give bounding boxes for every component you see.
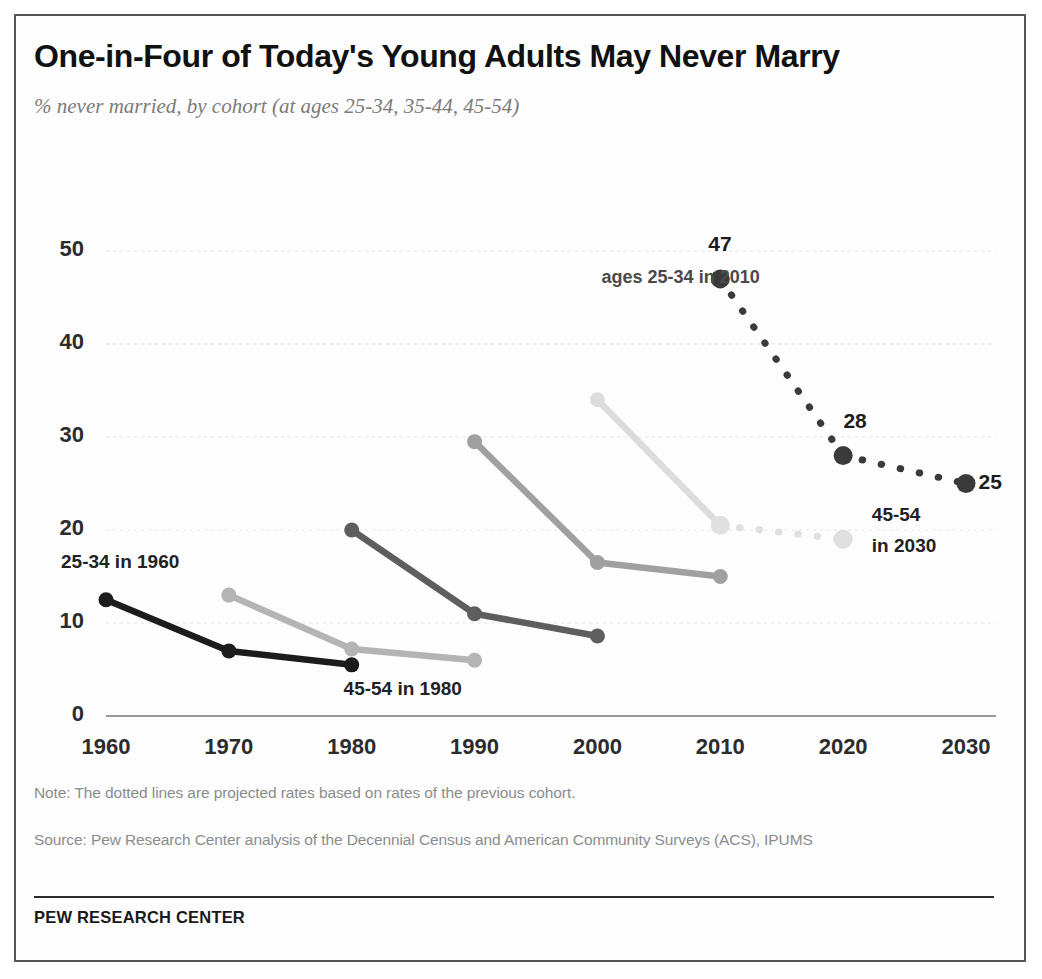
series-data-point [467,606,482,621]
chart-annotation: in 2030 [872,535,936,557]
x-axis-tick-label: 2030 [921,734,1011,760]
series-data-point [590,555,605,570]
series-data-point [221,643,236,658]
chart-series [711,269,976,493]
chart-annotation: 45-54 in 1980 [344,678,462,700]
series-data-point [344,642,359,657]
series-data-point [711,516,730,535]
series-line-dotted [720,525,843,539]
x-axis-tick-label: 1990 [430,734,520,760]
series-data-point [957,474,976,493]
series-layer [99,269,976,672]
y-axis-tick-label: 50 [34,236,84,262]
x-axis-tick-label: 2000 [552,734,642,760]
footer-divider [34,896,994,898]
data-value-label: 47 [708,232,731,256]
chart-series [344,523,605,644]
y-axis-tick-label: 10 [34,608,84,634]
series-data-point [467,653,482,668]
x-axis-tick-label: 1960 [61,734,151,760]
chart-annotation: 45-54 [872,504,921,526]
series-line [597,400,720,526]
series-data-point [713,569,728,584]
chart-series [711,516,853,549]
y-axis-tick-label: 40 [34,329,84,355]
x-axis-tick-label: 2010 [675,734,765,760]
series-data-point [834,530,853,549]
y-axis-tick-label: 20 [34,515,84,541]
chart-annotation: ages 25-34 in 2010 [602,267,760,288]
y-axis-tick-label: 30 [34,422,84,448]
gridlines [106,251,996,623]
series-line-dotted [843,456,966,484]
series-data-point [590,392,605,407]
y-axis-tick-label: 0 [34,701,84,727]
data-value-label: 25 [979,470,1002,494]
data-value-label: 28 [843,409,866,433]
series-data-point [221,588,236,603]
chart-series [467,434,728,584]
series-data-point [834,446,853,465]
series-data-point [344,523,359,538]
chart-annotation: 25-34 in 1960 [61,551,179,573]
x-axis-tick-label: 2020 [798,734,888,760]
x-axis-tick-label: 1970 [184,734,274,760]
series-line-dotted [720,279,843,456]
series-data-point [99,592,114,607]
chart-figure: One-in-Four of Today's Young Adults May … [14,14,1026,962]
chart-source: Source: Pew Research Center analysis of … [34,828,994,852]
series-data-point [467,434,482,449]
brand-label: PEW RESEARCH CENTER [34,908,245,927]
x-axis-tick-label: 1980 [307,734,397,760]
series-data-point [344,657,359,672]
series-data-point [590,629,605,644]
chart-note: Note: The dotted lines are projected rat… [34,784,994,802]
chart-series [590,392,728,533]
line-chart-canvas [16,16,1024,960]
